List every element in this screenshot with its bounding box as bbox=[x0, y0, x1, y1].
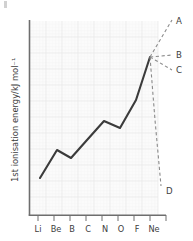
x-tick-label-be: Be bbox=[51, 224, 62, 234]
x-tick-label-ne: Ne bbox=[148, 224, 159, 234]
x-tick-label-n: N bbox=[102, 224, 108, 234]
y-axis-title: 1st ionisation energy/kJ mol⁻¹ bbox=[10, 58, 20, 182]
scan-artifact-mark bbox=[4, 1, 7, 8]
option-label-a: A bbox=[176, 16, 182, 26]
ionisation-energy-chart: A B C D Li Be B C N O F Ne 1st ionisatio… bbox=[0, 0, 193, 241]
x-tick-label-o: O bbox=[118, 224, 124, 234]
option-label-b: B bbox=[176, 50, 182, 60]
x-tick-label-li: Li bbox=[35, 224, 42, 234]
option-label-d: D bbox=[166, 186, 173, 196]
chart-figure: A B C D Li Be B C N O F Ne 1st ionisatio… bbox=[0, 0, 193, 241]
x-tick-label-f: F bbox=[135, 224, 140, 234]
x-tick-label-b: B bbox=[69, 224, 75, 234]
option-label-c: C bbox=[176, 65, 182, 75]
x-tick-label-c: C bbox=[85, 224, 91, 234]
